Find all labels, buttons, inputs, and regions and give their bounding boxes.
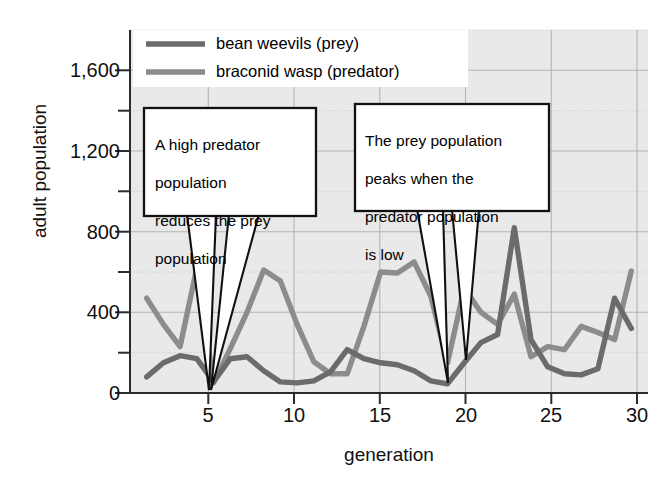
x-tick-30: 30 xyxy=(626,404,648,427)
x-tick-15: 15 xyxy=(369,404,391,427)
x-axis-title: generation xyxy=(130,444,648,466)
chart-figure: bean weevils (prey) braconid wasp (preda… xyxy=(0,0,666,479)
y-axis-title: adult population xyxy=(29,51,51,291)
x-tick-20: 20 xyxy=(455,404,477,427)
x-tick-5: 5 xyxy=(202,404,213,427)
x-tick-10: 10 xyxy=(283,404,305,427)
x-axis-tick-labels: 5 10 15 20 25 30 xyxy=(0,0,666,479)
x-tick-25: 25 xyxy=(540,404,562,427)
